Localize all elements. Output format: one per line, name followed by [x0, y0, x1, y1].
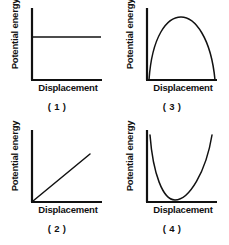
panel-caption-4: ( 4 ): [115, 223, 229, 234]
plot-area-2: Potential energy Displacement: [0, 122, 114, 217]
y-axis-label: Potential energy: [124, 120, 136, 192]
graph-panel-2: Potential energy Displacement ( 2 ): [0, 122, 114, 244]
plot-area-4: Potential energy Displacement: [115, 122, 229, 217]
y-axis-label: Potential energy: [9, 120, 21, 192]
panel-caption-3: ( 3 ): [115, 101, 229, 112]
graph-panel-1: Potential energy Displacement ( 1 ): [0, 0, 114, 122]
x-axis-label: Displacement: [141, 204, 225, 215]
curve-linear: [33, 154, 90, 201]
y-axis-label: Potential energy: [9, 0, 21, 70]
x-axis-label: Displacement: [26, 82, 110, 93]
x-axis-label: Displacement: [141, 82, 225, 93]
curve-inverted-parabola: [149, 17, 215, 80]
graph-panel-3: Potential energy Displacement ( 3 ): [115, 0, 229, 122]
x-axis-label: Displacement: [26, 204, 110, 215]
graph-panel-4: Potential energy Displacement ( 4 ): [115, 122, 229, 244]
panel-caption-2: ( 2 ): [0, 223, 114, 234]
plot-area-3: Potential energy Displacement: [115, 0, 229, 95]
figure-grid: Potential energy Displacement ( 1 ) Pote…: [0, 0, 229, 245]
y-axis-label: Potential energy: [124, 0, 136, 70]
panel-caption-1: ( 1 ): [0, 101, 114, 112]
plot-area-1: Potential energy Displacement: [0, 0, 114, 95]
curve-upward-parabola: [150, 135, 212, 200]
